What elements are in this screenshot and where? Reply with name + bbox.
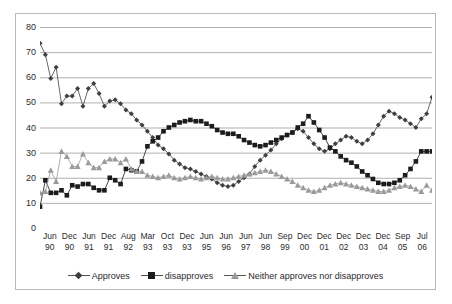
square-data-point	[226, 131, 231, 136]
square-data-point	[40, 204, 42, 209]
triangle-data-point	[284, 176, 290, 182]
square-data-point	[403, 173, 408, 178]
square-data-point	[65, 193, 70, 198]
y-axis-tick-label: 0	[14, 224, 36, 233]
triangle-data-point	[322, 185, 328, 191]
diamond-data-point	[392, 111, 397, 116]
square-data-point	[236, 134, 241, 139]
square-data-point	[344, 158, 349, 163]
triangle-data-point	[171, 175, 177, 181]
square-data-point	[376, 180, 381, 185]
square-data-point	[381, 182, 386, 187]
diamond-data-point	[220, 183, 225, 188]
triangle-data-point	[305, 187, 311, 193]
diamond-data-point	[64, 94, 69, 99]
triangle-data-point	[273, 171, 279, 177]
legend-label-disapproves: disapproves	[165, 271, 214, 281]
square-data-point	[274, 138, 279, 143]
square-data-point	[215, 128, 220, 133]
square-data-point	[290, 130, 295, 135]
square-data-point	[59, 188, 64, 193]
diamond-data-point	[70, 94, 75, 99]
square-data-point	[118, 182, 123, 187]
series-line	[40, 43, 432, 186]
triangle-data-point	[263, 167, 269, 173]
triangle-data-point	[187, 173, 193, 179]
x-axis-tick-label: Jul06	[407, 231, 437, 253]
plot-area	[40, 27, 432, 228]
diamond-data-point	[403, 117, 408, 122]
square-data-point	[188, 118, 193, 123]
chart-legend: Approves disapproves Neither approves no…	[15, 268, 436, 284]
square-data-point	[108, 175, 113, 180]
y-axis-tick-label: 30	[14, 149, 36, 158]
diamond-data-point	[231, 183, 236, 188]
square-data-point	[269, 140, 274, 145]
square-data-point	[355, 164, 360, 169]
legend-item-neither[interactable]: Neither approves nor disapproves	[224, 271, 383, 281]
diamond-data-point	[156, 143, 161, 148]
triangle-data-point	[118, 160, 124, 166]
diamond-data-point	[413, 125, 418, 130]
diamond-data-point	[113, 97, 118, 102]
square-data-point	[430, 149, 432, 154]
square-data-point	[102, 188, 107, 193]
y-axis-tick-label: 40	[14, 124, 36, 133]
square-data-point	[183, 119, 188, 124]
legend-item-approves[interactable]: Approves	[68, 271, 130, 281]
square-data-point	[252, 143, 257, 148]
y-axis-tick-label: 10	[14, 199, 36, 208]
square-data-point	[167, 125, 172, 130]
legend-item-disapproves[interactable]: disapproves	[141, 271, 214, 281]
square-data-point	[161, 129, 166, 134]
diamond-data-point	[408, 121, 413, 126]
triangle-data-point	[279, 173, 285, 179]
square-data-point	[371, 177, 376, 182]
triangle-data-point	[209, 173, 215, 179]
x-axis: Jun90Dec90Jun91Dec91Aug92Mar93Oct93Dec93…	[40, 231, 432, 259]
diamond-data-point	[48, 76, 53, 81]
triangle-data-point	[300, 185, 306, 191]
square-data-point	[91, 186, 96, 191]
triangle-data-point	[413, 186, 419, 192]
square-data-point	[75, 184, 80, 189]
square-data-point	[301, 121, 306, 126]
diamond-data-point	[188, 166, 193, 171]
square-data-point	[54, 191, 59, 196]
diamond-data-point	[354, 139, 359, 144]
square-data-point	[231, 131, 236, 136]
diamond-data-point	[360, 141, 365, 146]
square-data-point	[387, 182, 392, 187]
square-data-point	[414, 159, 419, 164]
square-data-point	[199, 119, 204, 124]
square-data-point	[220, 130, 225, 135]
square-data-point	[140, 159, 145, 164]
square-data-point	[81, 182, 86, 187]
diamond-data-point	[80, 104, 85, 109]
square-data-point	[263, 143, 268, 148]
square-data-point	[360, 169, 365, 174]
square-data-point	[145, 144, 150, 149]
square-data-point	[48, 191, 53, 196]
triangle-data-point	[338, 180, 344, 186]
square-data-point	[150, 139, 155, 144]
triangle-data-point	[85, 160, 91, 166]
series-line	[40, 151, 432, 192]
square-data-point	[424, 149, 429, 154]
diamond-data-point	[236, 179, 241, 184]
triangle-marker-icon	[224, 271, 246, 281]
triangle-data-point	[101, 158, 107, 164]
triangle-data-point	[53, 179, 59, 185]
series-line	[40, 116, 432, 206]
square-data-point	[397, 178, 402, 183]
diamond-data-point	[193, 169, 198, 174]
triangle-data-point	[289, 179, 295, 185]
square-data-point	[242, 138, 247, 143]
square-data-point	[306, 114, 311, 119]
square-data-point	[317, 128, 322, 133]
diamond-data-point	[54, 65, 59, 70]
square-data-point	[204, 121, 209, 126]
diamond-data-point	[338, 138, 343, 143]
triangle-data-point	[402, 182, 408, 188]
chart-container: 80706050403020100 Jun90Dec90Jun91Dec91Au…	[0, 0, 452, 304]
